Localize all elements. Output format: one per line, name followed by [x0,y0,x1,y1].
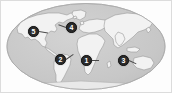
map-marker-4-label: 4 [67,23,76,32]
screenshot-root: 5 4 2 1 3 [0,0,172,93]
map-marker-4[interactable]: 4 [66,22,77,33]
landmass-antarctic-rim [11,81,161,92]
landmass-british-isles [80,21,84,25]
map-marker-5[interactable]: 5 [28,26,39,37]
landmass-new-zealand [158,70,162,75]
map-marker-1[interactable]: 1 [81,55,92,66]
map-marker-5-label: 5 [29,27,38,36]
world-map-figure: 5 4 2 1 3 [1,1,171,92]
leader-line-1 [92,60,99,61]
map-marker-1-label: 1 [82,56,91,65]
map-marker-2-label: 2 [56,55,65,64]
world-map-graphic [1,1,171,92]
map-marker-2[interactable]: 2 [55,54,66,65]
map-marker-3[interactable]: 3 [118,55,129,66]
map-marker-3-label: 3 [119,56,128,65]
